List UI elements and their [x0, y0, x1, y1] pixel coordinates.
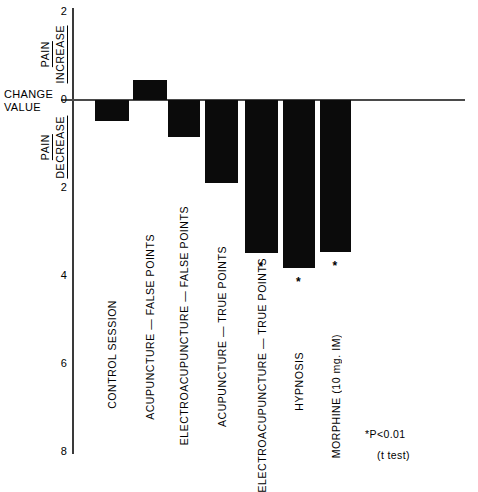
x-label-acupuncture-false-points: ACUPUNCTURE — FALSE POINTS — [144, 234, 156, 420]
pain-increase-label: PAIN INCREASE — [36, 12, 70, 96]
significance-star-morphine: * — [333, 261, 338, 271]
x-label-hypnosis: HYPNOSIS — [293, 352, 305, 411]
pain-increase-term-bottom: INCREASE — [53, 25, 68, 83]
x-label-control-session: CONTROL SESSION — [106, 300, 118, 409]
bar-electroacupuncture-false-points — [168, 100, 200, 137]
footnote-test: (t test) — [377, 449, 410, 461]
bar-hypnosis — [283, 100, 315, 268]
pain-decrease-term-top: PAIN — [38, 134, 53, 160]
pain-decrease-label: PAIN DECREASE — [36, 105, 70, 189]
x-label-electroacupuncture-true-points: ELECTROACUPUNCTURE — TRUE POINTS — [256, 258, 268, 492]
y-axis-line — [72, 8, 74, 454]
bar-control-session — [95, 100, 129, 121]
bar-morphine — [320, 100, 351, 252]
y-tick-6: 6 — [52, 358, 67, 369]
y-tick-4: 4 — [52, 270, 67, 281]
y-tick-8: 8 — [52, 446, 67, 457]
x-label-electroacupuncture-false-points: ELECTROACUPUNCTURE — FALSE POINTS — [178, 206, 190, 445]
footnote-p-value: *P<0.01 — [365, 428, 405, 440]
x-label-morphine: MORPHINE (10 mg. IM) — [330, 334, 342, 458]
bar-acupuncture-false-points — [133, 80, 167, 100]
x-label-acupuncture-true-points: ACUPUNCTURE — TRUE POINTS — [216, 246, 228, 427]
pain-increase-term-top: PAIN — [38, 41, 53, 67]
bar-acupuncture-true-points — [205, 100, 238, 183]
pain-decrease-term-bottom: DECREASE — [53, 116, 68, 179]
bar-electroacupuncture-true-points — [245, 100, 278, 253]
significance-star-hypnosis: * — [296, 277, 301, 287]
